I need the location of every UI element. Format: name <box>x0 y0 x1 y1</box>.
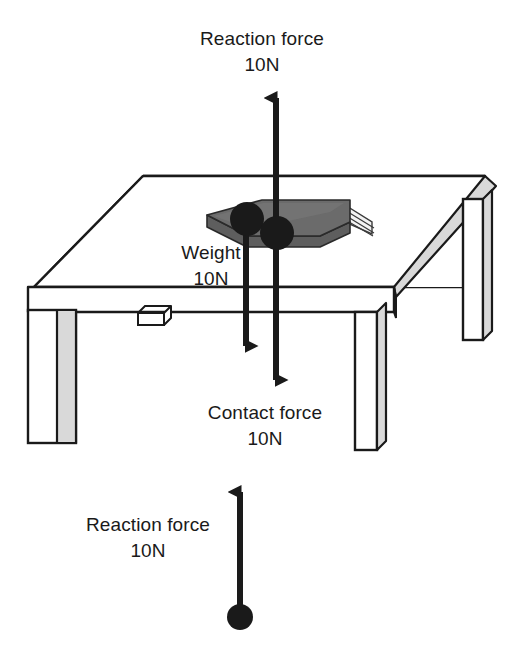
label-contact-force: Contact force 10N <box>208 402 322 449</box>
table-leg-front-left <box>28 310 76 443</box>
arrow-reaction-force-bottom <box>227 492 253 630</box>
force-diagram-canvas: Reaction force 10N Weight 10N Contact fo… <box>0 0 517 659</box>
label-reaction-force-bottom-name: Reaction force <box>86 514 210 535</box>
label-contact-force-name: Contact force <box>208 402 322 423</box>
force-diagram: Reaction force 10N Weight 10N Contact fo… <box>0 0 517 659</box>
table-apron-right <box>394 287 396 318</box>
table-apron-front <box>28 287 394 312</box>
label-weight-value: 10N <box>193 268 228 289</box>
label-contact-force-value: 10N <box>247 428 282 449</box>
force-point-contact <box>260 216 294 250</box>
force-point-weight <box>230 202 264 236</box>
label-weight-name: Weight <box>181 242 241 263</box>
force-point-ground <box>227 604 253 630</box>
table-leg-front-right <box>355 303 386 450</box>
label-reaction-force-top-value: 10N <box>244 54 279 75</box>
clipped-caption: ... <box>8 648 248 659</box>
label-reaction-force-bottom-value: 10N <box>130 540 165 561</box>
label-reaction-force-top-name: Reaction force <box>200 28 324 49</box>
label-reaction-force-top: Reaction force 10N <box>200 28 324 75</box>
table-leg-back-right <box>463 190 492 340</box>
label-reaction-force-bottom: Reaction force 10N <box>86 514 210 561</box>
